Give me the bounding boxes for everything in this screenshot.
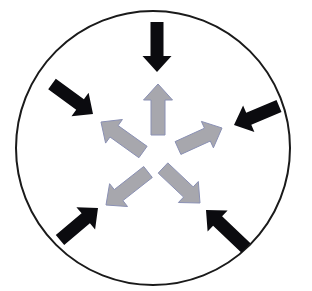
inward-arrow-lower-left-icon [56,207,98,245]
inward-arrow-upper-right-icon [234,100,282,132]
inward-arrow-upper-left-icon [48,79,93,117]
inward-arrow-top-icon [143,22,172,72]
outward-arrows-group [101,84,222,207]
outward-arrow-top-icon [144,84,173,135]
outward-arrow-upper-left-icon [101,120,147,158]
pressure-diagram [0,0,312,291]
outward-arrow-lower-right-icon [158,163,200,203]
inward-arrow-lower-right-icon [206,210,251,253]
diagram-canvas: Pressure balance: inward forces vs outwa… [0,0,312,291]
inward-arrows-group [48,22,281,253]
outward-arrow-lower-left-icon [106,167,152,207]
outward-arrow-right-icon [175,121,222,154]
